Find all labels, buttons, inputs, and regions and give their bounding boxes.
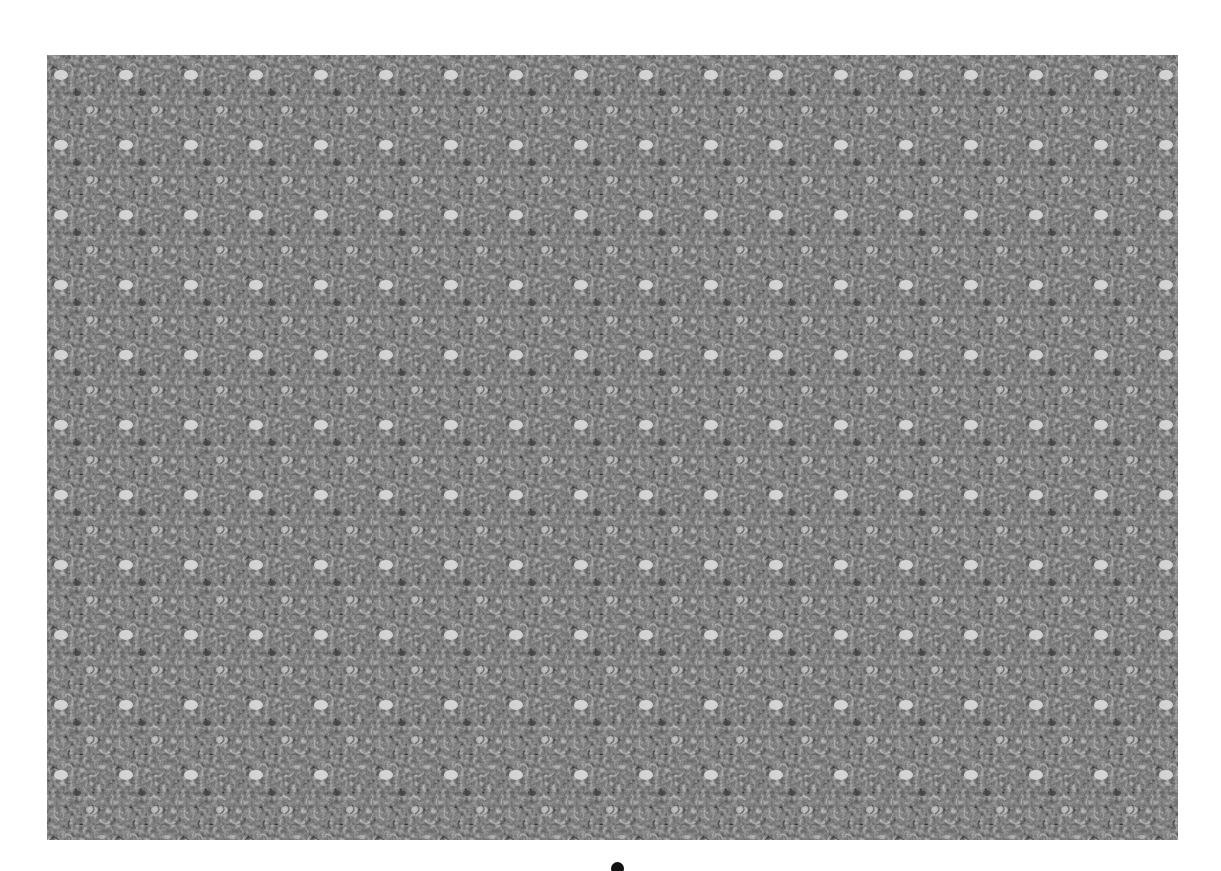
stereogram-texture bbox=[47, 55, 1178, 840]
stereogram-image bbox=[47, 55, 1178, 840]
page bbox=[0, 0, 1221, 871]
dot-icon bbox=[611, 862, 624, 871]
